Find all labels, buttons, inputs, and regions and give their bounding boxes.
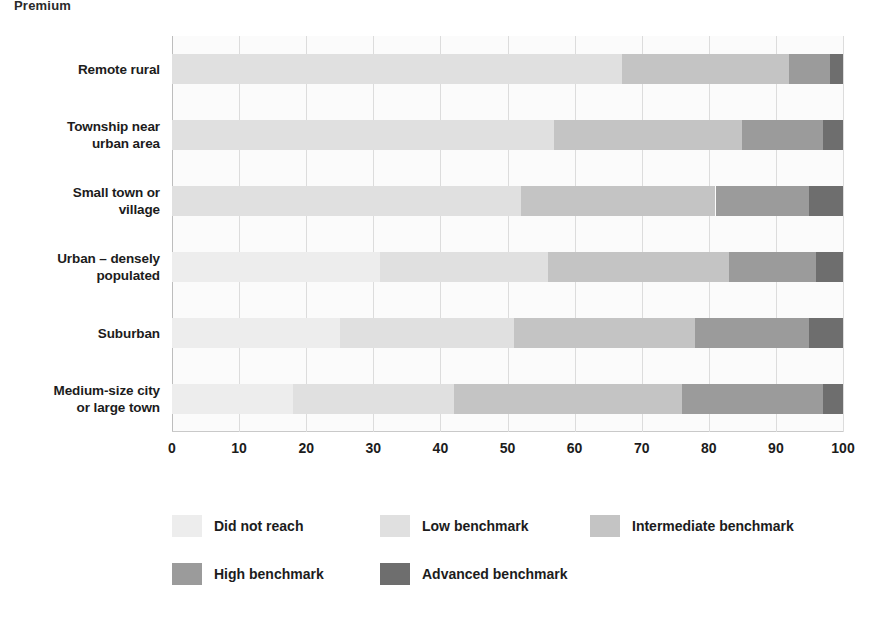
bar-segment (548, 252, 729, 282)
bar-segment (454, 384, 682, 414)
legend-swatch (172, 563, 202, 585)
bar-segment (172, 120, 554, 150)
x-tick-30: 30 (366, 440, 382, 456)
bar-segment (695, 318, 809, 348)
x-tick-60: 60 (567, 440, 583, 456)
category-label: Small town orvillage (0, 184, 160, 218)
bar-segment (823, 120, 843, 150)
bar-segment (172, 186, 521, 216)
bar-segment (729, 252, 816, 282)
legend-item: Did not reach (172, 515, 303, 537)
stacked-bar (172, 186, 843, 216)
gridline-100 (843, 36, 844, 432)
bar-segment (809, 186, 843, 216)
bar-segment (293, 384, 454, 414)
x-tick-10: 10 (231, 440, 247, 456)
legend-item: Low benchmark (380, 515, 529, 537)
bar-segment (172, 54, 622, 84)
plot-area (172, 36, 843, 432)
x-tick-20: 20 (298, 440, 314, 456)
bar-segment (809, 318, 843, 348)
stacked-bar (172, 318, 843, 348)
stacked-bar (172, 120, 843, 150)
legend-item: Intermediate benchmark (590, 515, 794, 537)
stacked-bar (172, 252, 843, 282)
category-label: Township nearurban area (0, 118, 160, 152)
bar-segment (554, 120, 742, 150)
bar-row (172, 318, 843, 348)
legend-item: Advanced benchmark (380, 563, 568, 585)
gridline-90 (776, 36, 777, 432)
bar-segment (172, 318, 340, 348)
bar-row (172, 252, 843, 282)
legend-row-top: Did not reachLow benchmarkIntermediate b… (0, 505, 881, 553)
bar-segment (380, 252, 548, 282)
legend-swatch (172, 515, 202, 537)
category-label: Suburban (0, 325, 160, 342)
bar-segment (716, 186, 810, 216)
gridline-70 (642, 36, 643, 432)
bar-segment (830, 54, 843, 84)
x-tick-70: 70 (634, 440, 650, 456)
category-label: Urban – denselypopulated (0, 250, 160, 284)
x-tick-40: 40 (433, 440, 449, 456)
category-label: Remote rural (0, 61, 160, 78)
legend-label: Low benchmark (422, 518, 529, 534)
bar-row (172, 384, 843, 414)
partial-heading-text: Premium (14, 0, 134, 10)
x-tick-90: 90 (768, 440, 784, 456)
bar-segment (622, 54, 790, 84)
legend-label: High benchmark (214, 566, 324, 582)
gridline-50 (508, 36, 509, 432)
legend-label: Intermediate benchmark (632, 518, 794, 534)
legend-swatch (380, 563, 410, 585)
bar-row (172, 186, 843, 216)
gridline-60 (575, 36, 576, 432)
bar-segment (742, 120, 823, 150)
bar-segment (172, 252, 380, 282)
x-tick-80: 80 (701, 440, 717, 456)
stacked-bar-chart: Premium Remote ruralTownship nearurban a… (0, 0, 881, 633)
legend-label: Did not reach (214, 518, 303, 534)
bar-segment (682, 384, 823, 414)
bar-segment (521, 186, 716, 216)
gridline-80 (709, 36, 710, 432)
chart-legend: Did not reachLow benchmarkIntermediate b… (0, 505, 881, 601)
bar-segment (816, 252, 843, 282)
category-label: Medium-size cityor large town (0, 382, 160, 416)
bar-segment (340, 318, 514, 348)
legend-label: Advanced benchmark (422, 566, 568, 582)
gridline-10 (239, 36, 240, 432)
bar-segment (789, 54, 829, 84)
bar-row (172, 54, 843, 84)
bar-row (172, 120, 843, 150)
bar-segment (823, 384, 843, 414)
gridline-40 (440, 36, 441, 432)
x-tick-0: 0 (168, 440, 176, 456)
legend-swatch (380, 515, 410, 537)
stacked-bar (172, 384, 843, 414)
y-axis-line (172, 36, 173, 432)
bar-segment (514, 318, 695, 348)
x-tick-100: 100 (831, 440, 854, 456)
legend-swatch (590, 515, 620, 537)
gridline-20 (306, 36, 307, 432)
stacked-bar (172, 54, 843, 84)
x-tick-50: 50 (500, 440, 516, 456)
legend-item: High benchmark (172, 563, 324, 585)
legend-row-bottom: High benchmarkAdvanced benchmark (0, 553, 881, 601)
gridline-30 (373, 36, 374, 432)
bar-segment (172, 384, 293, 414)
